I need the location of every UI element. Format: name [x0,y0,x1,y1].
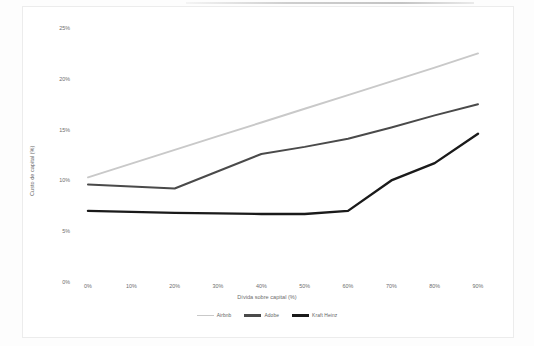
chart-page: Custo de capital (%) 0%5%10%15%20%25% 0%… [0,0,534,346]
legend-item-label: Adobe [264,313,279,318]
x-tick-label: 30% [213,283,224,289]
x-tick-label-group: 0%10%20%30%40%50%60%70%80%90% [84,283,483,289]
chart-plot-area: 0%5%10%15%20%25% 0%10%20%30%40%50%60%70%… [0,0,534,346]
x-tick-label: 40% [256,283,267,289]
legend-item-label: Kraft Heinz [312,313,337,318]
series-line [88,134,478,214]
x-tick-label: 80% [429,283,440,289]
x-tick-label: 0% [84,283,92,289]
x-tick-label: 10% [126,283,137,289]
x-axis-title: Dívida sobre capital (%) [237,294,297,300]
legend-item[interactable]: Adobe [244,313,279,318]
y-tick-label-group: 0%5%10%15%20%25% [59,25,70,285]
x-tick-label: 50% [299,283,310,289]
y-tick-label: 0% [62,279,70,285]
legend-color-swatch [244,314,261,316]
legend-item-label: Airbnb [217,313,232,318]
series-line-group [88,53,478,214]
x-tick-label: 20% [169,283,180,289]
x-tick-label: 90% [473,283,484,289]
legend-item[interactable]: Kraft Heinz [292,313,337,318]
y-tick-label: 15% [59,127,70,133]
legend-color-swatch [292,314,309,317]
y-tick-label: 5% [62,228,70,234]
series-line [88,104,478,188]
chart-legend: AirbnbAdobeKraft Heinz [0,313,534,318]
y-tick-label: 25% [59,25,70,31]
legend-item[interactable]: Airbnb [197,313,232,318]
legend-color-swatch [197,315,214,317]
series-line [88,53,478,177]
x-tick-label: 60% [343,283,354,289]
y-tick-label: 10% [59,177,70,183]
x-tick-label: 70% [386,283,397,289]
y-tick-label: 20% [59,76,70,82]
